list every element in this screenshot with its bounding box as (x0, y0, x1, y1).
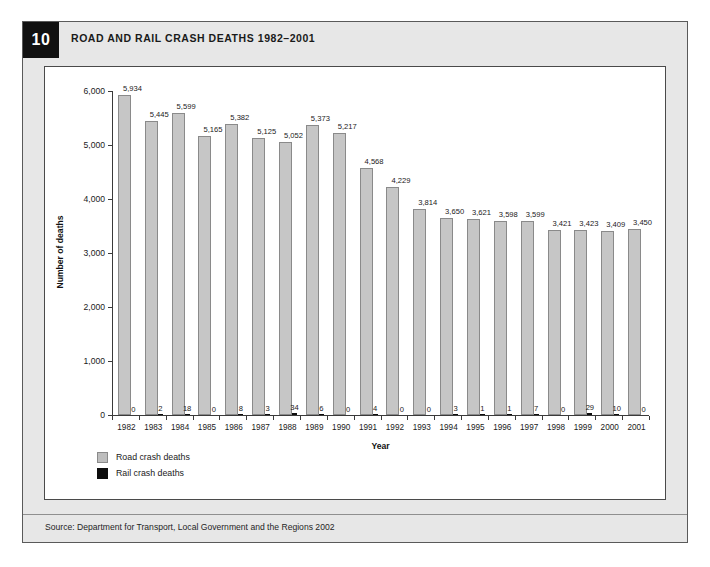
y-axis-tick-label: 2,000 (65, 302, 105, 312)
x-axis-tick-mark (300, 416, 301, 420)
bar-rail (265, 414, 270, 415)
x-axis-tick-label: 1992 (386, 423, 404, 432)
x-axis-tick-label: 1990 (332, 423, 350, 432)
x-axis-tick-label: 1994 (440, 423, 458, 432)
bar-road (172, 113, 185, 415)
bar-road (360, 168, 373, 415)
x-axis-tick-label: 1982 (117, 423, 135, 432)
x-axis-tick-mark (112, 416, 113, 420)
bar-road (601, 231, 614, 415)
bar-value-label-road: 4,568 (365, 157, 384, 166)
x-axis-tick-mark (139, 416, 140, 420)
bar-rail (158, 414, 163, 415)
bar-value-label-road: 3,650 (445, 207, 464, 216)
bar-road (279, 142, 292, 415)
bar-value-label-rail: 34 (290, 403, 298, 412)
x-axis-tick-label: 2000 (601, 423, 619, 432)
x-axis-tick-mark (381, 416, 382, 420)
bar-value-label-rail: 18 (183, 404, 191, 413)
bar-road (494, 221, 507, 415)
x-axis-tick-mark (461, 416, 462, 420)
bar-rail (480, 414, 485, 415)
bar-value-label-road: 3,621 (472, 208, 491, 217)
figure-source-band: Source: Department for Transport, Local … (23, 514, 687, 543)
x-axis-tick-mark (434, 416, 435, 420)
bar-value-label-road: 5,373 (311, 114, 330, 123)
bar-road (333, 133, 346, 415)
bar-value-label-rail: 1 (480, 404, 484, 413)
x-axis-tick-label: 1983 (144, 423, 162, 432)
bar-road (198, 136, 211, 415)
x-axis-tick-mark (273, 416, 274, 420)
bar-value-label-rail: 0 (561, 405, 565, 414)
x-axis-tick-label: 1987 (252, 423, 270, 432)
x-axis-tick-mark (327, 416, 328, 420)
x-axis-tick-label: 1996 (493, 423, 511, 432)
bar-rail (614, 414, 619, 415)
bar-road (118, 95, 131, 415)
bar-value-label-road: 3,814 (418, 198, 437, 207)
y-axis-tick-label: 0 (65, 410, 105, 420)
bar-value-label-rail: 0 (131, 405, 135, 414)
bar-value-label-rail: 0 (641, 405, 645, 414)
y-axis-tick-mark (108, 199, 112, 200)
x-axis-tick-label: 1999 (574, 423, 592, 432)
bar-rail (587, 413, 592, 415)
bar-value-label-rail: 0 (212, 405, 216, 414)
bar-value-label-road: 3,450 (633, 218, 652, 227)
x-axis-tick-label: 1988 (278, 423, 296, 432)
y-axis-tick-mark (108, 253, 112, 254)
y-axis-tick-mark (108, 307, 112, 308)
y-axis-title: Number of deaths (55, 192, 65, 312)
x-axis-title: Year (371, 441, 389, 451)
bar-value-label-rail: 10 (612, 404, 620, 413)
bar-value-label-road: 3,599 (526, 210, 545, 219)
x-axis-tick-mark (219, 416, 220, 420)
x-axis-tick-label: 1991 (359, 423, 377, 432)
bar-value-label-road: 3,598 (499, 210, 518, 219)
bar-value-label-road: 4,229 (391, 176, 410, 185)
x-axis-tick-mark (595, 416, 596, 420)
x-axis-tick-label: 1997 (520, 423, 538, 432)
x-axis-tick-mark (649, 416, 650, 420)
x-axis-tick-mark (622, 416, 623, 420)
y-axis-line (112, 91, 113, 416)
x-axis-tick-mark (515, 416, 516, 420)
y-axis-tick-label: 4,000 (65, 194, 105, 204)
x-axis-tick-mark (246, 416, 247, 420)
bar-value-label-rail: 0 (400, 405, 404, 414)
y-axis-tick-mark (108, 145, 112, 146)
bar-value-label-road: 5,599 (177, 102, 196, 111)
x-axis-tick-mark (407, 416, 408, 420)
bar-rail (185, 414, 190, 415)
y-axis-tick-mark (108, 91, 112, 92)
bar-value-label-rail: 3 (266, 404, 270, 413)
x-axis-tick-label: 1993 (413, 423, 431, 432)
figure-title: ROAD AND RAIL CRASH DEATHS 1982–2001 (71, 32, 315, 44)
x-axis-tick-mark (568, 416, 569, 420)
bar-value-label-road: 3,421 (553, 219, 572, 228)
bar-road (521, 221, 534, 415)
bar-value-label-rail: 6 (319, 404, 323, 413)
x-axis-tick-mark (193, 416, 194, 420)
bar-rail (292, 413, 297, 415)
figure-source-text: Source: Department for Transport, Local … (45, 522, 335, 532)
x-axis-tick-mark (542, 416, 543, 420)
bar-value-label-rail: 3 (454, 404, 458, 413)
bar-value-label-road: 5,217 (338, 122, 357, 131)
bar-road (413, 209, 426, 415)
legend-label-rail: Rail crash deaths (116, 468, 184, 478)
chart-legend: Road crash deaths Rail crash deaths (97, 449, 190, 481)
bar-rail (319, 414, 324, 415)
bar-value-label-road: 3,409 (606, 220, 625, 229)
x-axis-tick-label: 1984 (171, 423, 189, 432)
bar-road (467, 219, 480, 415)
bar-road (628, 229, 641, 415)
x-axis-tick-mark (354, 416, 355, 420)
x-axis-tick-mark (166, 416, 167, 420)
legend-swatch-rail-icon (97, 468, 108, 479)
bar-value-label-road: 5,382 (230, 113, 249, 122)
y-axis-tick-label: 6,000 (65, 86, 105, 96)
bar-rail (453, 414, 458, 415)
figure-header: 10 ROAD AND RAIL CRASH DEATHS 1982–2001 (23, 22, 687, 56)
